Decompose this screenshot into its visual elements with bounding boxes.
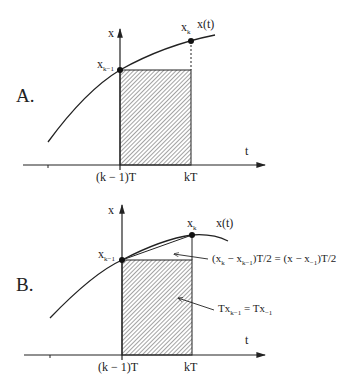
label-x-k-minus-1: xk−1	[98, 247, 115, 263]
tick-label-k-minus-1-t: (k − 1)T	[96, 170, 137, 184]
label-x-k: xk	[181, 20, 191, 36]
tick-label-k-minus-1-t: (k − 1)T	[98, 360, 139, 374]
label-x-k-minus-1: xk−1	[97, 57, 114, 73]
t-axis-label: t	[245, 144, 249, 158]
point-x-k	[188, 38, 194, 44]
panel-a-label: A.	[16, 85, 34, 106]
point-x-k	[189, 232, 195, 238]
rectangle-area	[122, 260, 192, 355]
t-axis-label: t	[245, 333, 249, 347]
rectangle-area-annotation: Txk−1 = Tx−1	[218, 302, 273, 317]
panel-b-label: B.	[16, 274, 33, 295]
panel-b: B. x t x(t) xk−1 xk (k − 1)T kT (xk − xk…	[16, 203, 336, 374]
panel-a: A. x t x(t) xk−1 xk (k − 1)T kT	[16, 17, 265, 184]
trapezoid-chord	[122, 235, 192, 260]
y-axis-label: x	[108, 26, 114, 40]
tick-label-kt: kT	[184, 170, 198, 184]
y-axis-label: x	[108, 203, 114, 217]
curve-label: x(t)	[197, 17, 214, 31]
curve-label: x(t)	[216, 216, 233, 230]
point-x-k-minus-1	[117, 67, 123, 73]
triangle-area-annotation: (xk − xk−1)T/2 = (x − x−1)T/2	[212, 252, 336, 267]
label-x-k: xk	[187, 216, 197, 232]
integration-diagram: A. x t x(t) xk−1 xk (k − 1)T kT B. x t x…	[0, 0, 358, 387]
tick-label-kt: kT	[184, 360, 198, 374]
rectangle-area	[120, 70, 191, 165]
triangle-pointer-arrow	[174, 254, 208, 259]
point-x-k-minus-1	[119, 257, 125, 263]
